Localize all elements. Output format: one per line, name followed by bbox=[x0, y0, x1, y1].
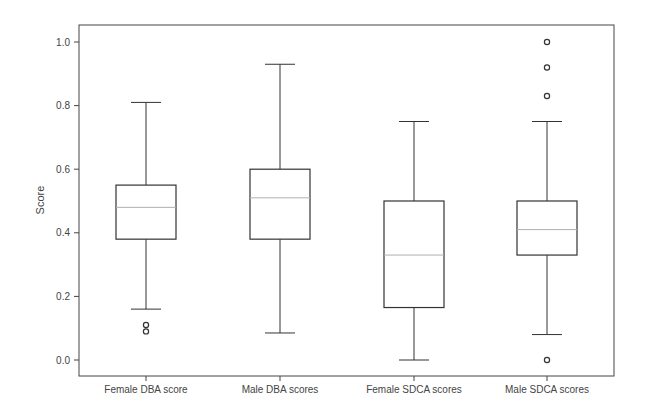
y-tick-label: 0.6 bbox=[56, 164, 70, 175]
outlier-point bbox=[143, 322, 148, 327]
x-tick-label: Female SDCA scores bbox=[366, 384, 462, 395]
box-3 bbox=[384, 122, 444, 361]
x-axis: Female DBA scoreMale DBA scoresFemale SD… bbox=[104, 376, 589, 395]
x-tick-label: Male SDCA scores bbox=[505, 384, 589, 395]
box-1 bbox=[116, 102, 176, 334]
box-4 bbox=[517, 39, 577, 362]
x-tick-label: Female DBA score bbox=[104, 384, 188, 395]
y-tick-label: 1.0 bbox=[56, 37, 70, 48]
box-plot-chart: 0.00.20.40.60.81.0 Female DBA scoreMale … bbox=[0, 0, 648, 417]
x-tick-label: Male DBA scores bbox=[242, 384, 319, 395]
outlier-point bbox=[544, 65, 549, 70]
y-axis-label: Score bbox=[34, 186, 46, 215]
outlier-point bbox=[544, 39, 549, 44]
y-tick-label: 0.0 bbox=[56, 355, 70, 366]
iqr-box bbox=[116, 185, 176, 239]
outlier-point bbox=[544, 93, 549, 98]
y-tick-label: 0.4 bbox=[56, 227, 70, 238]
iqr-box bbox=[250, 169, 310, 239]
y-tick-label: 0.2 bbox=[56, 291, 70, 302]
y-axis: 0.00.20.40.60.81.0 bbox=[56, 37, 79, 366]
y-tick-label: 0.8 bbox=[56, 100, 70, 111]
iqr-box bbox=[517, 201, 577, 255]
iqr-box bbox=[384, 201, 444, 308]
plot-area bbox=[116, 39, 577, 362]
outlier-point bbox=[143, 329, 148, 334]
box-2 bbox=[250, 64, 310, 333]
outlier-point bbox=[544, 357, 549, 362]
